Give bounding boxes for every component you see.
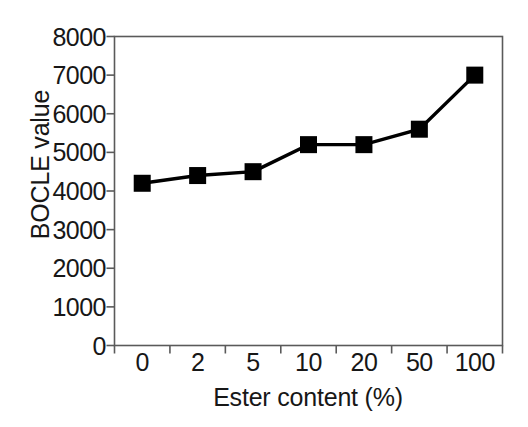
data-point-marker — [300, 136, 317, 153]
chart-figure: BOCLE value 0100020003000400050006000700… — [0, 0, 528, 427]
x-tick-label: 100 — [435, 350, 515, 375]
data-point-marker — [411, 121, 428, 138]
data-point-marker — [189, 167, 206, 184]
plot-frame — [115, 37, 503, 346]
data-point-marker — [245, 163, 262, 180]
y-axis-ticks — [107, 37, 115, 346]
x-axis-title: Ester content (%) — [114, 383, 502, 412]
data-point-marker — [134, 175, 151, 192]
data-point-marker — [466, 67, 483, 84]
data-point-marker — [355, 136, 372, 153]
data-series-markers — [134, 67, 484, 192]
